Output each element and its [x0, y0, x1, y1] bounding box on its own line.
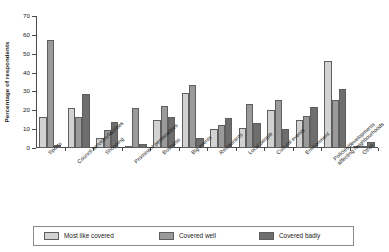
- bar: [275, 100, 282, 148]
- bar: [189, 85, 196, 148]
- bar: [246, 104, 253, 148]
- bar-group: [210, 16, 232, 148]
- y-axis-tick-label: 60: [23, 32, 30, 38]
- bar: [332, 100, 339, 148]
- y-axis-tick: [32, 73, 36, 74]
- y-axis-tick: [32, 16, 36, 17]
- y-axis-tick: [32, 91, 36, 92]
- y-axis-title: Percentage of respondents: [2, 16, 12, 148]
- bar-group: [182, 16, 204, 148]
- y-axis-tick: [32, 35, 36, 36]
- y-axis-tick-label: 20: [23, 107, 30, 113]
- bar: [267, 110, 274, 148]
- legend-item[interactable]: Covered well: [159, 232, 216, 240]
- bar: [339, 89, 346, 148]
- legend-label: Covered badly: [279, 233, 320, 239]
- chart-legend: Most like coveredCovered wellCovered bad…: [33, 226, 354, 246]
- y-axis-tick: [32, 148, 36, 149]
- legend-item[interactable]: Covered badly: [259, 232, 320, 240]
- bar: [75, 117, 82, 148]
- x-axis-tick: [378, 148, 379, 151]
- y-axis-tick-label: 10: [23, 126, 30, 132]
- legend-swatch: [159, 232, 174, 240]
- bar: [125, 146, 132, 148]
- bar: [132, 108, 139, 148]
- y-axis-tick-label: 0: [27, 145, 30, 151]
- y-axis-tick: [32, 110, 36, 111]
- y-axis-tick: [32, 129, 36, 130]
- bar-group: [267, 16, 289, 148]
- bar-group: [125, 16, 147, 148]
- bar: [47, 40, 54, 148]
- y-axis-tick-label: 30: [23, 88, 30, 94]
- bar-group: [39, 16, 61, 148]
- y-axis-tick-label: 70: [23, 13, 30, 19]
- bar-group: [68, 16, 90, 148]
- bar-group: [239, 16, 261, 148]
- plot-area: 010203040506070: [36, 16, 378, 148]
- y-axis-tick-label: 50: [23, 51, 30, 57]
- bar-group: [324, 16, 346, 148]
- y-axis-tick-label: 40: [23, 69, 30, 75]
- legend-item[interactable]: Most like covered: [44, 232, 114, 240]
- bar: [68, 108, 75, 148]
- bar: [39, 117, 46, 148]
- bar: [82, 94, 89, 148]
- y-axis-line: [36, 16, 37, 148]
- bar-chart: Percentage of respondents 01020304050607…: [0, 0, 389, 252]
- legend-label: Covered well: [179, 233, 216, 239]
- bar: [182, 93, 189, 148]
- legend-swatch: [44, 232, 59, 240]
- x-axis-category-labels: SportsCouncil services/facilitiesShoppin…: [36, 150, 378, 210]
- y-axis-tick: [32, 54, 36, 55]
- legend-label: Most like covered: [64, 233, 114, 239]
- legend-swatch: [259, 232, 274, 240]
